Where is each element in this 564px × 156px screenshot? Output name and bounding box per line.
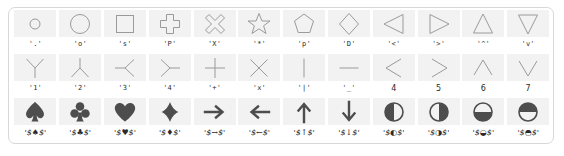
circle-left-half-icon bbox=[373, 98, 415, 125]
marker-code-label: 6 bbox=[481, 83, 486, 94]
marker-cell-triangle-up: '^' bbox=[461, 10, 506, 50]
marker-code-label: '|' bbox=[298, 83, 311, 94]
plus-filled-icon bbox=[149, 10, 191, 37]
marker-cell-hline: '_' bbox=[327, 54, 372, 94]
marker-cell-leftarrow: '$←$' bbox=[237, 98, 282, 138]
marker-code-label: 'v' bbox=[522, 39, 535, 50]
tri-down-icon bbox=[14, 54, 56, 81]
rightarrow-icon bbox=[194, 98, 236, 125]
tri-left-icon bbox=[104, 54, 146, 81]
marker-cell-tri-right: '4' bbox=[147, 54, 192, 94]
marker-code-label: '4' bbox=[163, 83, 176, 94]
marker-grid: '.''o''s''P''X''*''p''D''<''>''^''v' '1'… bbox=[13, 10, 551, 142]
marker-cell-diamondsuit: '$♦$' bbox=[147, 98, 192, 138]
marker-cell-triangle-down: 'v' bbox=[506, 10, 551, 50]
marker-cell-point: '.' bbox=[13, 10, 58, 50]
marker-code-label: '$←$' bbox=[249, 127, 270, 138]
marker-cell-caretright: 5 bbox=[416, 54, 461, 94]
plus-icon bbox=[194, 54, 236, 81]
marker-cell-tri-left: '3' bbox=[103, 54, 148, 94]
spadesuit-icon bbox=[14, 98, 56, 125]
triangle-left-icon bbox=[373, 10, 415, 37]
marker-code-label: 4 bbox=[391, 83, 396, 94]
marker-code-label: 's' bbox=[118, 39, 131, 50]
marker-cell-caretdown: 7 bbox=[506, 54, 551, 94]
marker-row-3: '$♠$''$♣$''$♥$''$♦$''$→$''$←$''$↑$''$↓$'… bbox=[13, 98, 551, 142]
marker-cell-heartsuit: '$♥$' bbox=[103, 98, 148, 138]
marker-code-label: '$◒$' bbox=[473, 127, 495, 138]
marker-code-label: '>' bbox=[432, 39, 445, 50]
triangle-up-icon bbox=[462, 10, 504, 37]
marker-code-label: '$♣$' bbox=[69, 127, 91, 138]
marker-code-label: '<' bbox=[387, 39, 400, 50]
square-icon bbox=[104, 10, 146, 37]
caretleft-icon bbox=[373, 54, 415, 81]
marker-code-label: '$◑$' bbox=[428, 127, 450, 138]
marker-cell-x: 'x' bbox=[237, 54, 282, 94]
marker-code-label: '$↓$' bbox=[338, 127, 359, 138]
caretup-icon bbox=[462, 54, 504, 81]
marker-cell-rightarrow: '$→$' bbox=[192, 98, 237, 138]
marker-code-label: '$♦$' bbox=[159, 127, 181, 138]
x-icon bbox=[238, 54, 280, 81]
triangle-right-icon bbox=[418, 10, 460, 37]
marker-cell-circle-up-half: '$◓$' bbox=[506, 98, 551, 138]
marker-cell-clubsuit: '$♣$' bbox=[58, 98, 103, 138]
marker-cell-square: 's' bbox=[103, 10, 148, 50]
marker-cell-star: '*' bbox=[237, 10, 282, 50]
marker-cell-plus-filled: 'P' bbox=[147, 10, 192, 50]
marker-cell-x-filled: 'X' bbox=[192, 10, 237, 50]
marker-cell-circle-down-half: '$◒$' bbox=[461, 98, 506, 138]
marker-cell-downarrow: '$↓$' bbox=[327, 98, 372, 138]
vline-icon bbox=[283, 54, 325, 81]
marker-code-label: '1' bbox=[29, 83, 42, 94]
marker-code-label: '$♥$' bbox=[114, 127, 136, 138]
marker-code-label: 5 bbox=[436, 83, 441, 94]
marker-code-label: 'X' bbox=[208, 39, 221, 50]
circle-down-half-icon bbox=[462, 98, 504, 125]
pentagon-icon bbox=[283, 10, 325, 37]
leftarrow-icon bbox=[238, 98, 280, 125]
marker-code-label: '2' bbox=[74, 83, 87, 94]
marker-cell-circle: 'o' bbox=[58, 10, 103, 50]
marker-code-label: '_' bbox=[342, 83, 355, 94]
marker-cell-caretup: 6 bbox=[461, 54, 506, 94]
marker-cell-caretleft: 4 bbox=[371, 54, 416, 94]
marker-code-label: 'D' bbox=[342, 39, 355, 50]
caretright-icon bbox=[418, 54, 460, 81]
diamondsuit-icon bbox=[149, 98, 191, 125]
marker-cell-tri-down: '1' bbox=[13, 54, 58, 94]
marker-cell-spadesuit: '$♠$' bbox=[13, 98, 58, 138]
heartsuit-icon bbox=[104, 98, 146, 125]
tri-up-icon bbox=[59, 54, 101, 81]
marker-cell-vline: '|' bbox=[282, 54, 327, 94]
hline-icon bbox=[328, 54, 370, 81]
marker-cell-tri-up: '2' bbox=[58, 54, 103, 94]
triangle-down-icon bbox=[507, 10, 549, 37]
marker-reference-figure: '.''o''s''P''X''*''p''D''<''>''^''v' '1'… bbox=[0, 0, 564, 156]
marker-cell-triangle-left: '<' bbox=[371, 10, 416, 50]
circle-icon bbox=[59, 10, 101, 37]
marker-code-label: '$→$' bbox=[204, 127, 225, 138]
downarrow-icon bbox=[328, 98, 370, 125]
x-filled-icon bbox=[194, 10, 236, 37]
marker-cell-uparrow: '$↑$' bbox=[282, 98, 327, 138]
diamond-icon bbox=[328, 10, 370, 37]
marker-code-label: '$◐$' bbox=[383, 127, 405, 138]
marker-cell-plus: '+' bbox=[192, 54, 237, 94]
marker-cell-triangle-right: '>' bbox=[416, 10, 461, 50]
marker-code-label: '$♠$' bbox=[25, 127, 47, 138]
marker-cell-circle-left-half: '$◐$' bbox=[371, 98, 416, 138]
marker-cell-circle-right-half: '$◑$' bbox=[416, 98, 461, 138]
uparrow-icon bbox=[283, 98, 325, 125]
marker-code-label: 'x' bbox=[253, 83, 266, 94]
marker-row-2: '1''2''3''4''+''x''|''_'4567 bbox=[13, 54, 551, 98]
marker-code-label: '$◓$' bbox=[517, 127, 539, 138]
marker-code-label: 7 bbox=[526, 83, 531, 94]
star-icon bbox=[238, 10, 280, 37]
marker-code-label: '^' bbox=[477, 39, 490, 50]
clubsuit-icon bbox=[59, 98, 101, 125]
marker-code-label: 'P' bbox=[163, 39, 176, 50]
tri-right-icon bbox=[149, 54, 191, 81]
point-icon bbox=[14, 10, 56, 37]
